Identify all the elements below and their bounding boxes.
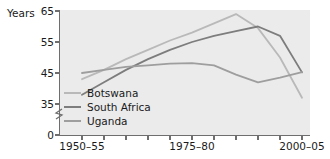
y-tick-55	[55, 41, 59, 42]
legend-item-south-africa[interactable]: South Africa	[64, 100, 151, 114]
y-tick-45	[55, 72, 59, 73]
x-tick-3	[147, 136, 148, 140]
legend: BotswanaSouth AfricaUganda	[64, 86, 151, 128]
x-tick-label-1975–80: 1975–80	[157, 140, 227, 152]
x-tick-label-2000–05: 2000–05	[267, 140, 330, 152]
y-tick-label-65: 65	[32, 6, 54, 16]
y-tick-35	[55, 103, 59, 104]
y-axis-title: Years	[7, 7, 35, 19]
y-tick-0	[55, 134, 59, 135]
x-tick-8	[257, 136, 258, 140]
y-tick-label-0: 0	[32, 130, 54, 140]
x-tick-2	[125, 136, 126, 140]
legend-swatch-icon	[64, 106, 81, 108]
y-tick-label-45: 45	[32, 68, 54, 78]
x-tick-7	[235, 136, 236, 140]
legend-label: Uganda	[87, 115, 128, 127]
legend-item-botswana[interactable]: Botswana	[64, 86, 151, 100]
x-tick-label-1950–55: 1950–55	[47, 140, 117, 152]
legend-label: South Africa	[87, 101, 151, 113]
legend-swatch-icon	[64, 92, 81, 94]
y-tick-65	[55, 10, 59, 11]
y-tick-label-35: 35	[32, 99, 54, 109]
legend-swatch-icon	[64, 120, 81, 122]
legend-item-uganda[interactable]: Uganda	[64, 114, 151, 128]
y-tick-label-55: 55	[32, 37, 54, 47]
legend-label: Botswana	[87, 87, 138, 99]
life-expectancy-line-chart: Years 655545350 1950–551975–802000–05 Bo…	[0, 0, 330, 159]
x-axis-line	[59, 135, 310, 136]
